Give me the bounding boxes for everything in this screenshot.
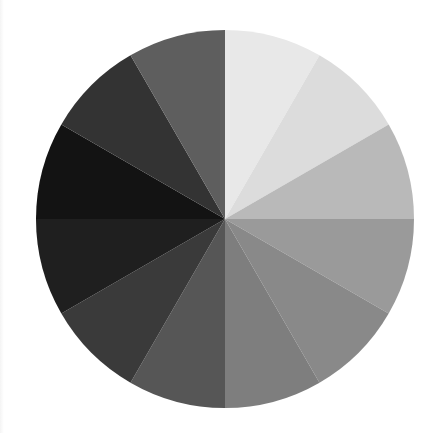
screenshot-canvas: Wedge 1Wedge 2Wedge 3Wedge 4Wedge 5Wedge… (0, 0, 441, 433)
pie-wedge-group: Wedge 1Wedge 2Wedge 3Wedge 4Wedge 5Wedge… (36, 30, 414, 408)
pie-chart-svg: Wedge 1Wedge 2Wedge 3Wedge 4Wedge 5Wedge… (0, 0, 441, 433)
pie-chart-figure: Wedge 1Wedge 2Wedge 3Wedge 4Wedge 5Wedge… (0, 0, 441, 433)
